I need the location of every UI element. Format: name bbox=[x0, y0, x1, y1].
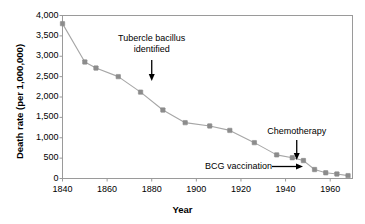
data-point bbox=[183, 120, 187, 124]
annotation-chemotherapy: Chemotherapy bbox=[242, 126, 352, 137]
data-point bbox=[60, 21, 64, 25]
y-tick-label: 1,000 bbox=[17, 132, 59, 142]
data-point bbox=[312, 167, 316, 171]
data-point bbox=[94, 66, 98, 70]
annotation-tubercle-line2: identified bbox=[92, 44, 212, 55]
annotation-tubercle-line1: Tubercle bacillus bbox=[92, 33, 212, 44]
data-point bbox=[274, 153, 278, 157]
data-point bbox=[138, 90, 142, 94]
data-point bbox=[346, 173, 350, 177]
data-point bbox=[161, 108, 165, 112]
x-tick-label: 1880 bbox=[132, 184, 172, 194]
annotation-bcg-vaccination: BCG vaccination bbox=[186, 161, 272, 172]
y-tick-label: 2,000 bbox=[17, 91, 59, 101]
data-point bbox=[290, 156, 294, 160]
data-point bbox=[228, 128, 232, 132]
data-point bbox=[116, 74, 120, 78]
x-tick-label: 1840 bbox=[43, 184, 83, 194]
y-tick-label: 1,500 bbox=[17, 111, 59, 121]
x-axis-title: Year bbox=[0, 204, 365, 215]
x-tick-label: 1920 bbox=[221, 184, 261, 194]
x-tick-label: 1900 bbox=[176, 184, 216, 194]
x-tick-label: 1860 bbox=[87, 184, 127, 194]
y-tick-label: 3,500 bbox=[17, 30, 59, 40]
x-tick-label: 1940 bbox=[266, 184, 306, 194]
y-tick-label: 3,000 bbox=[17, 50, 59, 60]
data-point bbox=[301, 158, 305, 162]
data-point bbox=[208, 124, 212, 128]
y-tick-label: 500 bbox=[17, 152, 59, 162]
data-point bbox=[324, 171, 328, 175]
y-tick-label: 2,500 bbox=[17, 71, 59, 81]
annotation-tubercle-bacillus: Tubercle bacillus identified bbox=[92, 33, 212, 55]
data-point bbox=[83, 60, 87, 64]
y-tick-label: 4,000 bbox=[17, 10, 59, 20]
x-tick-label: 1960 bbox=[310, 184, 350, 194]
y-tick-label: 0 bbox=[17, 173, 59, 183]
data-point bbox=[252, 140, 256, 144]
chart-container: Death rate (per 1,000,000) Year 05001,00… bbox=[0, 0, 365, 224]
data-point bbox=[335, 172, 339, 176]
